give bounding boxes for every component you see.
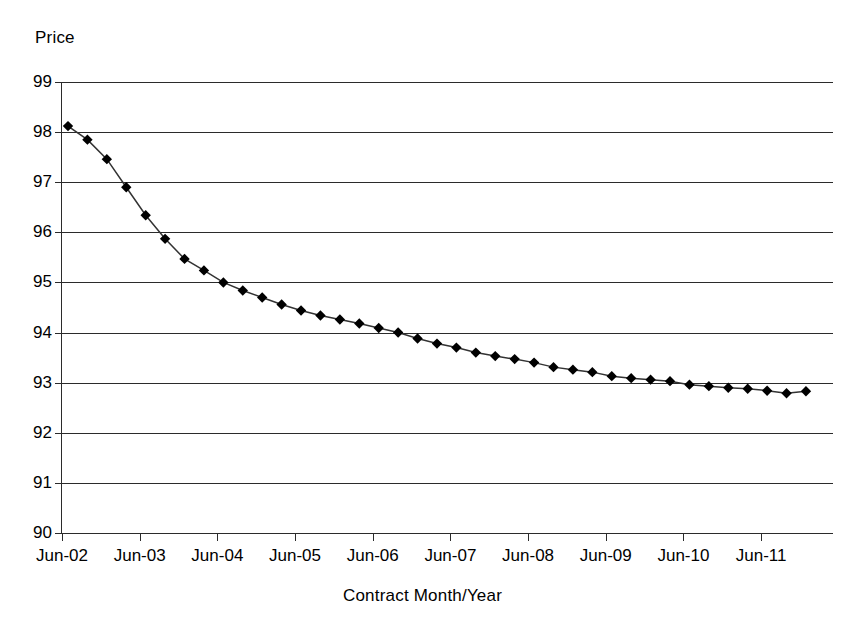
x-tick-mark — [217, 533, 218, 541]
price-line-chart: Price 99989796959493929190 Jun-02Jun-03J… — [0, 0, 845, 631]
y-tick-label: 96 — [18, 223, 52, 240]
gridline — [62, 383, 833, 384]
y-tick-label: 91 — [18, 474, 52, 491]
gridline — [62, 483, 833, 484]
y-tick-mark — [55, 383, 63, 384]
x-tick-mark — [450, 533, 451, 541]
x-tick-label: Jun-11 — [736, 546, 787, 566]
gridline — [62, 282, 833, 283]
y-axis-title: Price — [35, 28, 75, 48]
y-tick-mark — [55, 333, 63, 334]
gridline — [62, 132, 833, 133]
x-tick-mark — [606, 533, 607, 541]
x-tick-label: Jun-06 — [347, 546, 399, 566]
x-tick-label: Jun-09 — [580, 546, 632, 566]
y-tick-mark — [55, 132, 63, 133]
gridline — [62, 533, 833, 534]
x-tick-label: Jun-10 — [657, 546, 709, 566]
x-tick-mark — [295, 533, 296, 541]
gridline — [62, 433, 833, 434]
plot-area — [62, 82, 833, 533]
x-tick-mark — [683, 533, 684, 541]
y-tick-mark — [55, 232, 63, 233]
y-tick-mark — [55, 182, 63, 183]
x-tick-label: Jun-07 — [424, 546, 476, 566]
y-tick-mark — [55, 82, 63, 83]
gridline — [62, 232, 833, 233]
gridline — [62, 82, 833, 83]
gridline — [62, 333, 833, 334]
x-tick-label: Jun-03 — [114, 546, 166, 566]
x-tick-label: Jun-05 — [269, 546, 321, 566]
x-tick-mark — [140, 533, 141, 541]
gridline — [62, 182, 833, 183]
y-tick-label: 93 — [18, 374, 52, 391]
x-tick-mark — [528, 533, 529, 541]
x-tick-label: Jun-08 — [502, 546, 554, 566]
y-tick-label: 99 — [18, 73, 52, 90]
x-tick-mark — [761, 533, 762, 541]
x-tick-mark — [373, 533, 374, 541]
y-tick-mark — [55, 433, 63, 434]
y-tick-mark — [55, 483, 63, 484]
y-tick-label: 92 — [18, 424, 52, 441]
y-tick-label: 97 — [18, 173, 52, 190]
x-tick-label: Jun-02 — [36, 546, 88, 566]
y-tick-label: 95 — [18, 273, 52, 290]
y-tick-label: 98 — [18, 123, 52, 140]
y-tick-label: 90 — [18, 524, 52, 541]
y-tick-mark — [55, 282, 63, 283]
x-axis-title: Contract Month/Year — [0, 586, 845, 606]
x-tick-label: Jun-04 — [191, 546, 243, 566]
y-tick-label: 94 — [18, 324, 52, 341]
x-tick-mark — [62, 533, 63, 541]
